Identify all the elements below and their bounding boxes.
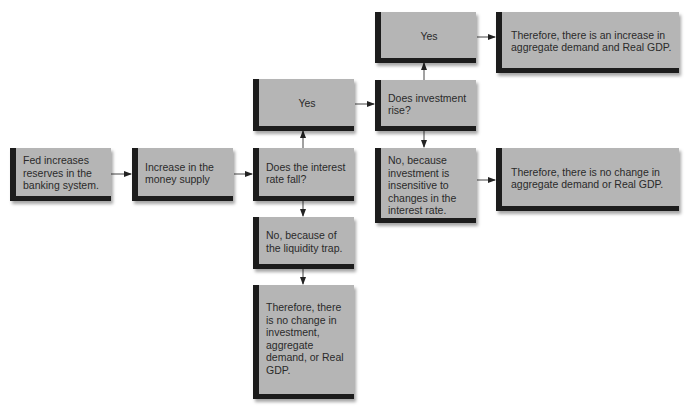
- node-no-change-ad-gdp: Therefore, there is no change in aggrega…: [496, 148, 679, 211]
- node-liquidity-trap: No, because of the liquidity trap.: [253, 217, 354, 269]
- node-increase-ad-gdp: Therefore, there is an increase in aggre…: [496, 12, 679, 73]
- node-label: Therefore, there is no change in investm…: [266, 301, 344, 376]
- node-label: Fed increases reserves in the banking sy…: [23, 154, 105, 192]
- node-investment-insensitive: No, because investment is insensitive to…: [375, 148, 476, 223]
- node-label: Yes: [420, 30, 437, 43]
- node-investment-question: Does investment rise?: [375, 80, 476, 131]
- node-label: Therefore, there is no change in aggrega…: [511, 166, 673, 191]
- node-label: Therefore, there is an increase in aggre…: [511, 29, 673, 54]
- node-label: No, because investment is insensitive to…: [388, 154, 456, 216]
- node-label: Increase in the money supply: [145, 161, 227, 186]
- node-money-supply: Increase in the money supply: [132, 148, 233, 201]
- node-label: No, because of the liquidity trap.: [266, 229, 348, 254]
- node-fed-increases-reserves: Fed increases reserves in the banking sy…: [10, 148, 111, 201]
- node-rate-yes: Yes: [253, 79, 354, 131]
- node-label: Yes: [298, 97, 315, 110]
- node-interest-rate-question: Does the interest rate fall?: [253, 148, 354, 201]
- node-label: Does investment rise?: [388, 92, 470, 117]
- node-label: Does the interest rate fall?: [266, 161, 348, 186]
- node-investment-yes: Yes: [375, 12, 476, 63]
- node-no-change-investment: Therefore, there is no change in investm…: [253, 285, 354, 399]
